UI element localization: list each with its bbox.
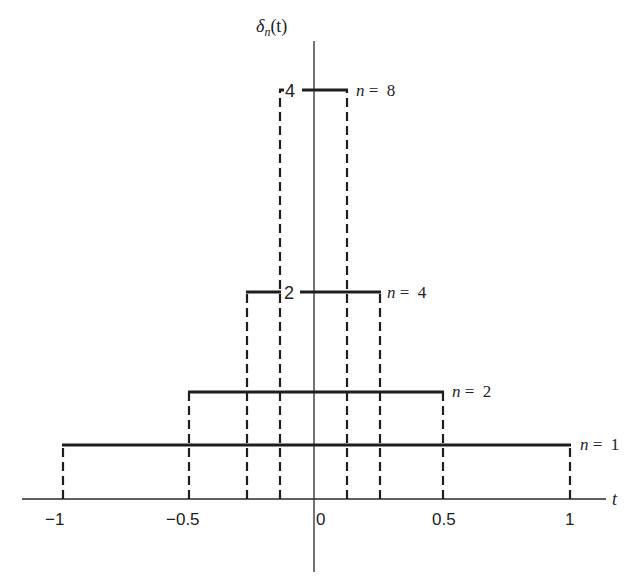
y-axis-title: δn(t) [256, 16, 287, 39]
delta-sequence-chart: δn(t) t −1 −0.5 0 0.5 1 4 2 n = 8 n = 4 … [0, 0, 640, 584]
series-label-n8: n = 8 [356, 81, 395, 100]
value-label-4: 4 [285, 81, 295, 101]
series-label-n4: n = 4 [387, 283, 427, 302]
series-label-n1: n = 1 [580, 435, 619, 454]
pulse-n1 [62, 445, 571, 499]
tick-label-minus-1: −1 [45, 510, 64, 529]
tick-label-0: 0 [316, 510, 325, 529]
x-axis-title: t [612, 489, 618, 509]
tick-label-0.5: 0.5 [432, 510, 456, 529]
tick-label-minus-0.5: −0.5 [166, 510, 200, 529]
value-label-2: 2 [284, 283, 294, 303]
tick-label-1: 1 [565, 510, 574, 529]
series-label-n2: n = 2 [452, 382, 491, 401]
